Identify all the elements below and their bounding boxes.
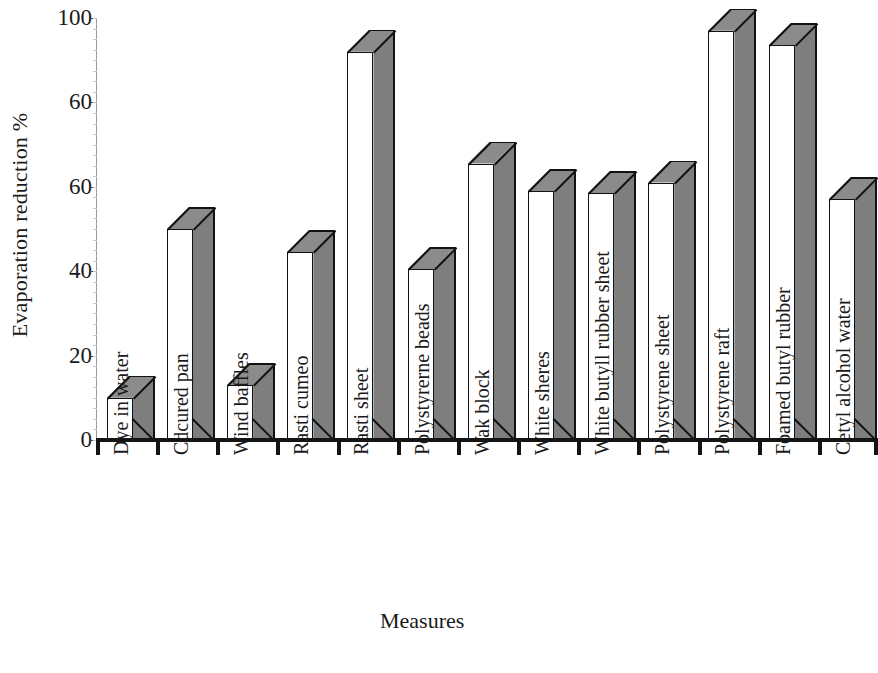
x-tick-label: Polystyrene sheet: [652, 314, 662, 455]
x-tick-mark: [577, 441, 581, 455]
x-tick-label: Wind baffles: [231, 352, 241, 455]
x-tick-mark: [818, 441, 822, 455]
bar-edge: [634, 171, 636, 440]
bar-edge: [153, 376, 155, 440]
y-tick-label: 60: [30, 90, 92, 113]
x-axis-tick-labels: Dye in waterCdcured panWind bafflesRasti…: [96, 455, 878, 655]
bar-edge: [550, 169, 576, 171]
bar-edge: [514, 142, 516, 440]
bar-side-face: [373, 30, 395, 440]
x-tick-label: White sheres: [532, 351, 542, 455]
x-tick-mark: [96, 441, 100, 455]
bar-edge: [249, 363, 275, 365]
x-tick-label: White butyll rubber sheet: [592, 251, 602, 455]
bar-edge: [454, 247, 456, 440]
x-tick-mark: [156, 441, 160, 455]
bar-edge: [490, 142, 516, 144]
x-tick-mark: [698, 441, 702, 455]
y-tick-label: 100: [30, 6, 92, 29]
bar-side-face: [674, 161, 696, 440]
bar-edge: [430, 247, 456, 249]
bar-edge: [610, 171, 636, 173]
x-tick-label: Dye in water: [111, 352, 121, 455]
bar-side-face: [193, 207, 215, 440]
bar-edge: [791, 23, 817, 25]
x-axis-title: Measures: [380, 608, 464, 634]
bar-edge: [730, 9, 756, 11]
chart-figure: Evaporation reduction % 100606040200 Dye…: [0, 0, 878, 673]
bar-side-face: [434, 247, 456, 440]
bar-side-face: [855, 177, 877, 440]
x-tick-mark: [216, 441, 220, 455]
x-tick-mark: [637, 441, 641, 455]
bar-edge: [274, 363, 276, 440]
x-tick-mark: [337, 441, 341, 455]
bar-edge: [670, 161, 696, 163]
bar-side-face: [734, 9, 756, 440]
x-tick-mark: [758, 441, 762, 455]
y-tick-label: 60: [30, 175, 92, 198]
bar-edge: [815, 23, 817, 440]
x-tick-label: Cetyl alcohol water: [833, 298, 843, 455]
bar-side-face: [795, 23, 817, 440]
x-tick-mark: [276, 441, 280, 455]
bar-edge: [213, 207, 215, 440]
bar-edge: [851, 177, 877, 179]
bar-edge: [574, 169, 576, 440]
y-axis-tick-labels: 100606040200: [30, 18, 92, 440]
x-tick-label: Cdcured pan: [171, 353, 181, 455]
bar-side-face: [554, 169, 576, 440]
y-tick-label: 40: [30, 259, 92, 282]
bar-edge: [309, 230, 335, 232]
x-tick-label: Polystyrerne beads: [412, 303, 422, 455]
x-tick-mark: [397, 441, 401, 455]
x-tick-label: Foamed butyl rubber: [773, 287, 783, 455]
bar-edge: [369, 30, 395, 32]
x-tick-label: Rasti sheet: [351, 368, 361, 455]
bar-edge: [129, 376, 155, 378]
y-tick-label: 0: [30, 428, 92, 451]
bar-edge: [695, 161, 697, 440]
x-tick-mark: [457, 441, 461, 455]
bar-side-face: [494, 142, 516, 440]
bar-side-face: [313, 230, 335, 440]
x-tick-label: Rasti cumeo: [291, 356, 301, 455]
bar-edge: [875, 177, 877, 440]
x-tick-label: Polystyrene raft: [712, 328, 722, 455]
bar-side-face: [614, 171, 636, 440]
x-tick-mark: [874, 441, 878, 455]
x-tick-mark: [517, 441, 521, 455]
x-tick-label: Wak block: [472, 369, 482, 455]
y-tick-label: 20: [30, 344, 92, 367]
bar-edge: [189, 207, 215, 209]
